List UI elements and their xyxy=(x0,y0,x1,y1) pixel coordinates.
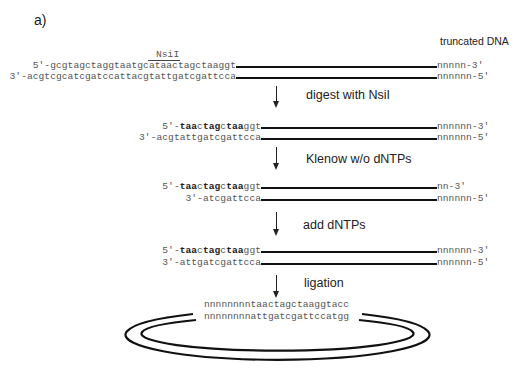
circular-plasmid-icon xyxy=(0,0,526,378)
